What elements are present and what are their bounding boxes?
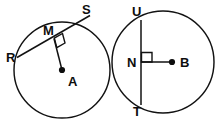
label-m: M	[43, 23, 54, 38]
center-point-b	[169, 59, 175, 65]
label-a: A	[68, 74, 78, 89]
label-s: S	[82, 2, 91, 17]
figure-circle-b: U N B T	[112, 4, 214, 119]
diagram-svg: S M R A U N B T	[0, 0, 223, 121]
right-angle-marker-n	[142, 53, 153, 63]
label-r: R	[6, 50, 16, 65]
label-b: B	[180, 55, 189, 70]
center-point-a	[59, 67, 65, 73]
figure-circle-a: S M R A	[6, 2, 110, 118]
geometry-diagram-canvas: S M R A U N B T	[0, 0, 223, 121]
label-u: U	[132, 4, 141, 19]
label-n: N	[127, 55, 136, 70]
label-t: T	[133, 104, 141, 119]
